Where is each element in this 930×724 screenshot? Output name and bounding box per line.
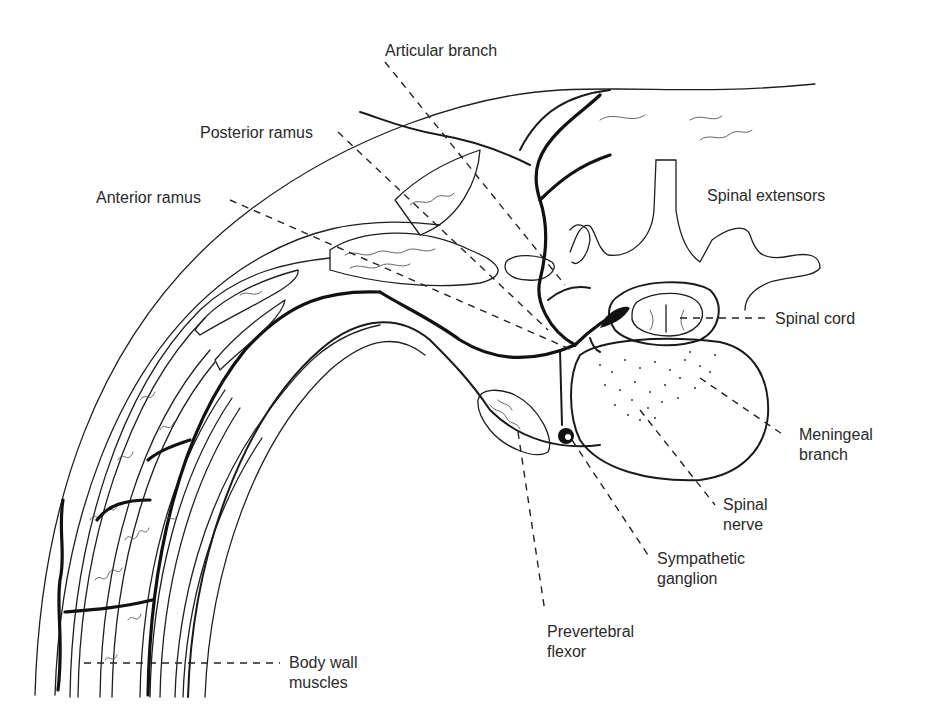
prevertebral-flexor-label: Prevertebralflexor (547, 623, 634, 660)
articular-branch-label-line: Articular branch (385, 42, 497, 59)
sympathetic-ganglion-label-line: ganglion (657, 570, 718, 587)
body-cavity-wall (188, 322, 600, 697)
spinal-nerve-label: Spinalnerve (723, 496, 767, 533)
vertebral-body-stipple (599, 351, 716, 421)
body-wall-muscles-label-line: Body wall (289, 654, 357, 671)
spinal-cord-label: Spinal cord (775, 310, 855, 327)
anterior-ramus-label: Anterior ramus (96, 189, 201, 206)
prevertebral-flexor-label-line: Prevertebral (547, 623, 634, 640)
spinal-extensors-label: Spinal extensors (707, 187, 825, 204)
meningeal-branch-label-line: branch (799, 446, 848, 463)
prevertebral-flexor-label-line: flexor (547, 643, 587, 660)
spinal-nerve-diagram: Articular branchPosterior ramusAnterior … (0, 0, 930, 724)
body-wall-muscles-label-line: muscles (289, 674, 348, 691)
meningeal-branch-label-line: Meningeal (799, 426, 873, 443)
body-wall-muscles-label: Body wallmuscles (289, 654, 357, 691)
spinal-cord-label-line: Spinal cord (775, 310, 855, 327)
anterior-ramus-label-line: Anterior ramus (96, 189, 201, 206)
vertebral-body (571, 339, 768, 480)
meningeal-branch-label: Meningealbranch (799, 426, 873, 463)
spinal-extensors-label-line: Spinal extensors (707, 187, 825, 204)
prevertebral-flexor-muscle (478, 390, 550, 454)
sympathetic-ganglion-label: Sympatheticganglion (657, 550, 745, 587)
posterior-ramus-label: Posterior ramus (200, 124, 313, 141)
body-wall-muscles (70, 258, 380, 697)
spinal-cord (632, 293, 703, 336)
sympathetic-ganglion-leader-line (572, 440, 650, 558)
posterior-ramus-label-line: Posterior ramus (200, 124, 313, 141)
articular-branch-label: Articular branch (385, 42, 497, 59)
sympathetic-ganglion-label-line: Sympathetic (657, 550, 745, 567)
posterior-ramus-leader-line (338, 132, 548, 330)
meningeal-branch-leader-line (700, 378, 785, 436)
spinal-nerve-branches (58, 90, 630, 690)
prevertebral-flexor-leader-line (518, 432, 545, 612)
spinal-nerve-leader-line (640, 410, 715, 505)
spinal-nerve-label-line: Spinal (723, 496, 767, 513)
spinal-nerve-label-line: nerve (723, 516, 763, 533)
